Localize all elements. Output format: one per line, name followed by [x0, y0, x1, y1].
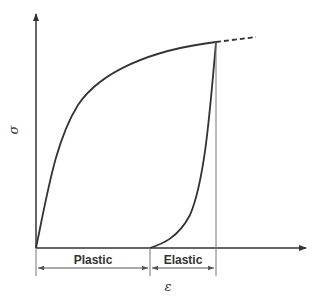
x-axis-label-epsilon: ε	[165, 279, 172, 294]
stress-strain-diagram: Plastic Elastic ε σ	[0, 0, 319, 305]
y-axis-label-sigma: σ	[6, 124, 21, 134]
elastic-label: Elastic	[164, 253, 203, 267]
extrapolated-curve-dashed	[216, 37, 256, 42]
plastic-label: Plastic	[74, 253, 113, 267]
unloading-curve	[150, 42, 216, 248]
